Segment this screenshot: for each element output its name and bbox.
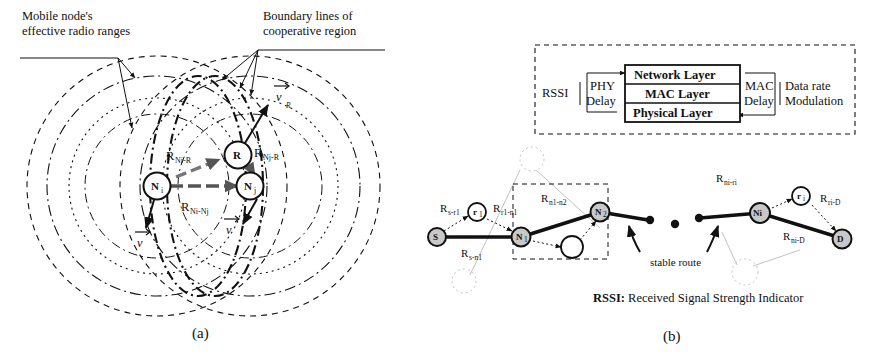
rssi-legend-expansion: Received Signal Strength Indicator (625, 291, 804, 305)
vel-nj-label: v (226, 223, 232, 237)
route-node-s-label: S (433, 232, 438, 242)
route-node-d-label: D (837, 234, 844, 244)
route-range-outlines (452, 147, 800, 293)
node-nj-label: N (244, 180, 252, 192)
relay-link-n1-relay (533, 241, 561, 247)
rssi-label: RSSI (542, 86, 568, 100)
route-link-label-ri-d: R ri-D (820, 192, 841, 207)
velocity-ni-arrow (146, 200, 154, 228)
dist-nj-r-sub: Nj-R (263, 153, 280, 162)
route-node-ni[interactable]: Ni (750, 203, 770, 223)
ann-radio-range-arrow-2 (118, 58, 132, 128)
relay-link-r1-n1 (487, 219, 512, 231)
ann-radio-range-arrow-1 (118, 58, 135, 78)
panel-a-caption: (a) (192, 325, 209, 342)
distance-label-nj-r: R Nj-R (254, 146, 280, 162)
route-node-n1[interactable]: N 1 (512, 228, 531, 247)
rssi-legend-abbr: RSSI: (593, 291, 625, 305)
range-connector-right (753, 250, 800, 266)
route-node-n2[interactable]: N 2 (591, 203, 610, 222)
dist-nj-r-base: R (254, 146, 263, 160)
route-node-ri[interactable]: r i (792, 187, 810, 205)
range-connector-ni (722, 232, 737, 265)
node-nj-sub: j (253, 186, 256, 195)
link-r1-n1-base: R (493, 202, 501, 214)
route-link-label-ni-d: R ni-D (783, 230, 805, 245)
ann-radio-range-line1: Mobile node's (22, 9, 93, 23)
route-node-n2-label: N (595, 207, 602, 217)
distance-label-ni-nj: R Ni-Nj (181, 200, 209, 216)
vel-r-label: v (276, 90, 282, 104)
phy-delay-line2: Delay (586, 94, 617, 108)
data-rate-label: Data rate (785, 79, 831, 93)
route-node-ni-label: Ni (753, 208, 762, 218)
figure-root: Mobile node's effective radio ranges Bou… (0, 0, 880, 362)
ann-radio-range-line2: effective radio ranges (22, 24, 130, 38)
route-node-r1-circle (468, 203, 486, 221)
panel-b-caption: (b) (663, 328, 681, 345)
node-r[interactable]: R (225, 142, 252, 169)
ann-boundary-line1: Boundary lines of (263, 9, 353, 23)
route-node-n1-sub: 1 (524, 235, 528, 244)
route-link-label-ni-ri: R ni-ri (716, 172, 737, 187)
route-break-dot-left (646, 216, 654, 224)
link-ni-d-sub: ni-D (791, 236, 805, 245)
layer-mac-label: MAC Layer (645, 87, 710, 101)
link-n1-n2-sub: n1-n2 (549, 198, 567, 207)
route-node-d[interactable]: D (833, 230, 852, 249)
vel-ni-label: v (137, 236, 143, 250)
node-nj[interactable]: N j (237, 173, 264, 200)
route-node-ri-circle (792, 187, 810, 205)
rssi-legend: RSSI: Received Signal Strength Indicator (593, 291, 804, 305)
route-node-ri-label: r (797, 191, 801, 201)
modulation-label: Modulation (785, 94, 844, 108)
link-n1-n2-base: R (541, 192, 549, 204)
layer-network-label: Network Layer (634, 68, 716, 82)
route-node-relay-mid[interactable] (561, 236, 583, 258)
route-link-n1-n2 (521, 212, 600, 237)
velocity-vector-nj: v (224, 199, 257, 237)
relay-link-ni-ri (772, 199, 792, 208)
panel-b: Network Layer MAC Layer Physical Layer R… (428, 45, 855, 345)
distance-label-ni-r: R Ni-R (166, 149, 192, 165)
layer-physical-label: Physical Layer (633, 106, 713, 120)
route-node-r1-sub: 1 (479, 210, 483, 219)
dist-ni-nj-base: R (181, 200, 190, 214)
dist-ni-nj-sub: Ni-Nj (190, 207, 209, 216)
stable-route-arrow-left (629, 226, 640, 252)
route-break-dot-right (695, 214, 703, 222)
link-r1-n1-sub: r1-n1 (501, 208, 517, 217)
route-node-s[interactable]: S (428, 228, 446, 246)
range-dotted-upper (520, 147, 544, 171)
velocity-vector-ni: v (135, 200, 154, 250)
route-link-label-s-n1: R s-n1 (461, 247, 482, 262)
route-link-ni-d (760, 213, 841, 238)
rssi-legend-text: RSSI: Received Signal Strength Indicator (593, 291, 804, 305)
link-ri-d-base: R (820, 192, 828, 204)
link-ni-ri-base: R (716, 172, 724, 184)
route-node-relay-mid-circle (561, 236, 583, 258)
link-ri-d-sub: ri-D (828, 198, 841, 207)
route-node-r1[interactable]: r 1 (468, 203, 486, 221)
dist-ni-r-base: R (166, 149, 175, 163)
relay-link-ri-d (812, 205, 836, 231)
relay-link-s-r1 (444, 216, 468, 231)
mac-delay-line2: Delay (744, 94, 775, 108)
link-s-r1-sub: s-r1 (448, 208, 460, 217)
vel-r-sub: R (285, 101, 291, 110)
route-node-n1-label: N (516, 232, 523, 242)
node-r-label: R (233, 149, 242, 161)
route-node-ri-sub: i (803, 194, 805, 203)
link-s-n1-base: R (461, 247, 469, 259)
route-link-label-r1-n1: R r1-n1 (493, 202, 517, 217)
dist-ni-r-sub: Ni-R (175, 156, 192, 165)
annotation-boundary-lines: Boundary lines of cooperative region (222, 9, 385, 95)
ann-boundary-line2: cooperative region (263, 24, 357, 38)
route-node-r1-label: r (473, 207, 477, 217)
route-topology: stable route S r 1 N 1 N 2 (428, 147, 852, 293)
node-ni[interactable]: N i (144, 173, 171, 200)
link-s-r1-base: R (440, 202, 448, 214)
phy-delay-line1: PHY (590, 79, 615, 93)
link-s-n1-sub: s-n1 (469, 253, 482, 262)
protocol-stack: Network Layer MAC Layer Physical Layer R… (535, 45, 855, 134)
